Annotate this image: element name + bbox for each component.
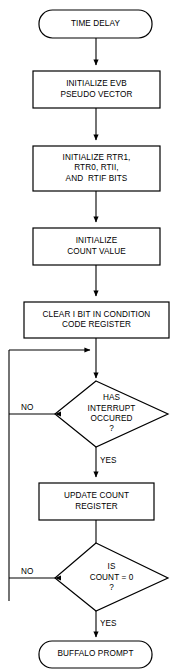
edge-label-interrupt-yes: YES xyxy=(100,456,117,465)
edge-label-count-no: NO xyxy=(21,567,33,576)
node-count-check-shape xyxy=(55,543,168,611)
node-init-bits-shape xyxy=(33,146,160,191)
node-init-count-shape xyxy=(33,228,160,265)
edge-label-count-yes: YES xyxy=(100,619,117,628)
node-init-evb-shape xyxy=(33,71,160,108)
node-update-count-shape xyxy=(39,483,154,520)
node-interrupt-check-shape xyxy=(55,381,168,447)
edge-label-interrupt-no: NO xyxy=(21,403,33,412)
node-start-shape xyxy=(39,10,152,38)
node-clear-i-bit-shape xyxy=(24,302,169,338)
node-end-shape xyxy=(39,641,152,668)
flowchart-diagram: TIME DELAY INITIALIZE EVB PSEUDO VECTOR … xyxy=(0,0,190,671)
